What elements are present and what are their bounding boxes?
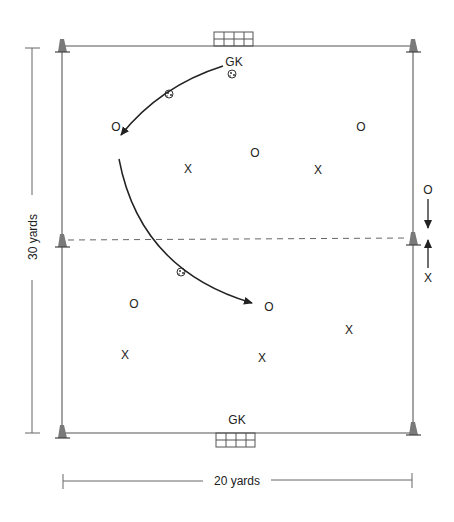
pass-arrow-gk	[121, 66, 223, 135]
defense-players: X X X X X	[121, 162, 353, 365]
cone-icon	[406, 232, 421, 245]
offense-player: O	[250, 146, 259, 160]
bottom-goal	[216, 433, 255, 447]
defense-player: X	[184, 162, 192, 176]
defense-player: X	[258, 351, 266, 365]
bottom-goalkeeper-label: GK	[228, 413, 245, 427]
offense-players: O O O O O	[111, 120, 365, 314]
soccer-ball-icon	[228, 70, 236, 78]
pass-arrow-forward	[119, 159, 252, 303]
side-defense-player: X	[424, 271, 432, 285]
side-offense-player: O	[423, 183, 432, 197]
width-label: 20 yards	[214, 474, 260, 488]
offense-player: O	[264, 300, 273, 314]
defense-player: X	[121, 348, 129, 362]
offense-player: O	[356, 120, 365, 134]
side-rotation: O X	[423, 183, 432, 285]
defense-player: X	[314, 163, 322, 177]
top-goalkeeper-label: GK	[225, 55, 242, 69]
offense-player: O	[111, 120, 120, 134]
soccer-drill-diagram: GK GK O O O O O X X X X X O X	[0, 0, 454, 522]
defense-player: X	[345, 323, 353, 337]
field-svg: GK GK O O O O O X X X X X O X	[0, 0, 454, 522]
cone-icon	[55, 234, 70, 247]
halfway-line	[68, 238, 408, 240]
offense-player: O	[129, 297, 138, 311]
length-label: 30 yards	[26, 214, 40, 260]
top-goal	[214, 32, 253, 46]
cone-icon	[55, 425, 70, 438]
